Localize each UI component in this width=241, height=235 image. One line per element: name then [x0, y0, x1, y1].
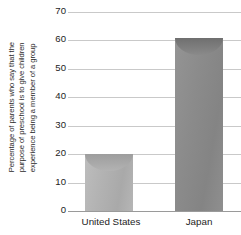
- gridline-70: [68, 12, 241, 13]
- y-axis-tick-labels: 70 60 50 40 30 20 10 0: [42, 0, 66, 235]
- bar-united-states: [85, 154, 133, 211]
- y-tick-20: 20: [44, 148, 66, 158]
- x-axis-baseline: [68, 211, 241, 212]
- y-tick-10: 10: [44, 177, 66, 187]
- bar-japan-body: [175, 38, 223, 211]
- x-axis-category-labels: United States Japan: [68, 215, 241, 235]
- y-tick-0: 0: [44, 205, 66, 215]
- y-tick-30: 30: [44, 120, 66, 130]
- y-axis-title-line-1: Percentage of parents who say that the: [7, 42, 16, 172]
- y-tick-70: 70: [44, 6, 66, 16]
- y-tick-60: 60: [44, 34, 66, 44]
- y-tick-40: 40: [44, 91, 66, 101]
- y-axis-title: experience being a member of a group pur…: [0, 0, 44, 215]
- x-label-united-states: United States: [56, 215, 166, 229]
- plot-area: [68, 12, 241, 211]
- y-axis-title-line-2: purpose of preschool is to give children: [17, 43, 26, 173]
- x-label-japan: Japan: [151, 215, 241, 229]
- y-axis-title-rotated-text: experience being a member of a group pur…: [7, 42, 37, 172]
- bar-chart: experience being a member of a group pur…: [0, 0, 241, 235]
- bar-japan: [175, 38, 223, 211]
- y-tick-50: 50: [44, 63, 66, 73]
- y-axis-title-line-3: experience being a member of a group: [28, 44, 37, 173]
